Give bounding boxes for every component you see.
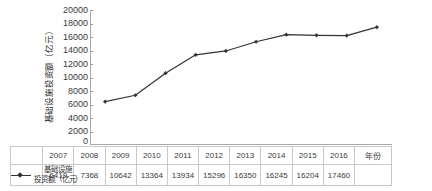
data-point-2014 xyxy=(314,33,318,37)
y-tick-label-18000: 18000 xyxy=(63,19,88,28)
table-value-5: 15296 xyxy=(199,165,230,186)
line-chart-figure: 基础设施投资额（亿元） 2000400060008000100001200014… xyxy=(0,0,432,191)
x-axis-title: 年份 xyxy=(355,147,392,165)
table-corner-blank xyxy=(11,147,43,165)
table-year-9: 2016 xyxy=(323,147,354,165)
table-year-4: 2011 xyxy=(167,147,198,165)
y-axis-tick-labels: 2000400060008000100001200014000160001800… xyxy=(46,0,90,146)
table-trailing-blank xyxy=(355,165,392,186)
y-axis-zero-label: 0 xyxy=(62,137,88,146)
table-year-6: 2013 xyxy=(230,147,261,165)
y-tick-label-12000: 12000 xyxy=(63,60,88,69)
y-tick-label-4000: 4000 xyxy=(68,114,88,123)
line-marker-icon xyxy=(11,171,31,179)
y-tick-label-2000: 2000 xyxy=(68,127,88,136)
table-value-2: 10642 xyxy=(105,165,136,186)
table-year-5: 2012 xyxy=(199,147,230,165)
data-point-2007 xyxy=(103,100,107,104)
table-year-1: 2008 xyxy=(74,147,105,165)
data-point-2015 xyxy=(345,34,349,38)
table-year-0: 2007 xyxy=(43,147,74,165)
plot-area xyxy=(90,10,392,145)
data-table: 2007 2008 2009 2010 2011 2012 2013 2014 … xyxy=(10,146,392,186)
legend-entry-investment: 基础设施 投资额（亿元） xyxy=(11,165,43,186)
table-value-8: 16204 xyxy=(292,165,323,186)
table-year-8: 2015 xyxy=(292,147,323,165)
data-point-2012 xyxy=(254,40,258,44)
table-value-3: 13364 xyxy=(136,165,167,186)
y-tick-label-6000: 6000 xyxy=(68,100,88,109)
y-tick-label-16000: 16000 xyxy=(63,33,88,42)
data-point-2011 xyxy=(224,49,228,53)
series-line-investment xyxy=(90,10,392,145)
data-point-2013 xyxy=(284,33,288,37)
table-row-years: 2007 2008 2009 2010 2011 2012 2013 2014 … xyxy=(11,147,392,165)
table-value-9: 17460 xyxy=(323,165,354,186)
y-tick-label-14000: 14000 xyxy=(63,46,88,55)
data-point-2016 xyxy=(375,25,379,29)
y-tick-label-10000: 10000 xyxy=(63,73,88,82)
table-year-2: 2009 xyxy=(105,147,136,165)
y-tick-label-20000: 20000 xyxy=(63,6,88,15)
table-row-values: 基础设施 投资额（亿元） 6419 7368 10642 13364 13934… xyxy=(11,165,392,186)
table-year-3: 2010 xyxy=(136,147,167,165)
table-year-7: 2014 xyxy=(261,147,292,165)
table-value-7: 16245 xyxy=(261,165,292,186)
y-tick-label-8000: 8000 xyxy=(68,87,88,96)
table-value-6: 16350 xyxy=(230,165,261,186)
table-value-4: 13934 xyxy=(167,165,198,186)
series-polyline xyxy=(105,27,377,102)
